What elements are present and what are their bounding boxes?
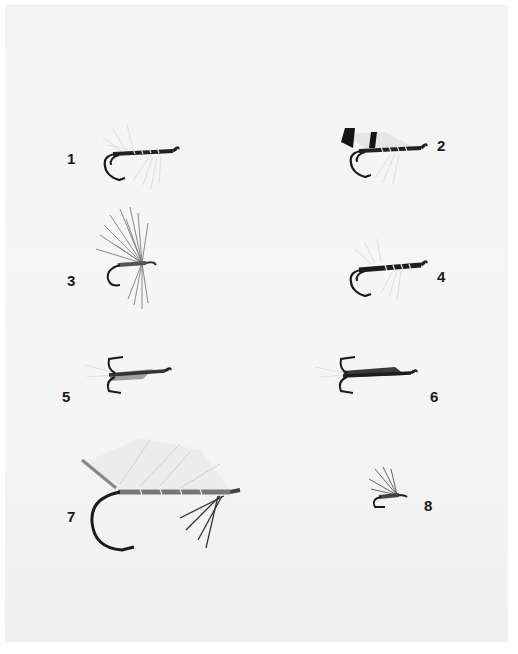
fly-1-double-hook — [93, 123, 193, 193]
fly-number-2: 2 — [437, 137, 445, 154]
fly-number-1: 1 — [67, 150, 75, 167]
fly-8-single-hook — [365, 465, 420, 510]
fly-5-treble-hook — [85, 347, 185, 407]
fly-number-6: 6 — [430, 388, 438, 405]
fly-3-single-hook — [90, 205, 170, 310]
fly-7-single-hook — [80, 430, 255, 555]
fly-number-7: 7 — [67, 508, 75, 525]
fly-number-8: 8 — [424, 497, 432, 514]
fly-plate: 1 2 3 — [5, 5, 508, 642]
fly-2-double-hook — [335, 118, 435, 188]
fly-number-3: 3 — [67, 272, 75, 289]
fly-4-double-hook — [335, 237, 435, 307]
fly-number-4: 4 — [437, 268, 445, 285]
fly-number-5: 5 — [62, 388, 70, 405]
fly-6-treble-hook — [315, 347, 425, 407]
